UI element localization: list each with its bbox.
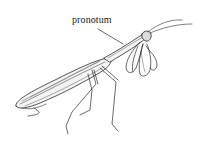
wings xyxy=(16,58,111,109)
leader-line xyxy=(98,29,123,44)
pronotum-label: pronotum xyxy=(72,14,112,25)
antennae xyxy=(148,20,192,33)
mantis-figure: pronotum xyxy=(0,0,206,142)
head xyxy=(142,31,151,41)
pronotum xyxy=(104,34,148,62)
